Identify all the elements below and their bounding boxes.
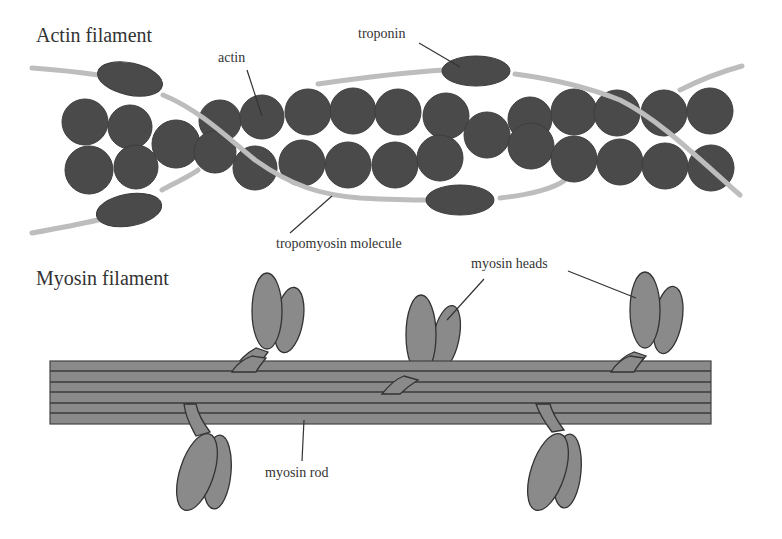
leader-myosin-heads-mid [447,279,484,320]
actin-monomer [285,89,331,135]
muscle-filament-diagram: Actin filament [0,0,782,539]
troponin-lower-mid [426,185,494,215]
tropomyosin-lower-right [500,180,565,198]
actin-monomer [330,88,376,134]
actin-monomer [108,105,152,149]
actin-monomer [62,99,108,145]
actin-monomer [551,136,597,182]
actin-monomer [240,95,284,139]
tropomyosin-upper-mid [318,70,445,84]
myosin-filament-title: Myosin filament [36,267,169,290]
tropomyosin-left-bottom-tail [32,220,98,233]
actin-monomer [508,123,554,169]
leader-troponin [419,43,460,67]
leader-myosin-heads-right [568,271,636,298]
myosin-head-front [630,272,660,348]
actin-monomer [597,139,643,185]
actin-monomer [375,89,421,135]
actin-monomer [372,142,418,188]
actin-filament-title: Actin filament [36,24,153,46]
actin-monomer [423,93,469,139]
label-actin: actin [218,50,245,65]
troponin-upper-left [94,56,165,101]
actin-monomer [114,145,158,189]
label-myosin-rod: myosin rod [265,465,328,480]
label-troponin: troponin [358,26,405,41]
leader-tropomyosin [290,196,332,233]
actin-monomer [325,142,371,188]
troponin-upper-mid [442,56,510,86]
actin-monomer [417,135,463,181]
label-tropomyosin: tropomyosin molecule [276,236,402,251]
actin-monomer [464,112,510,158]
tropomyosin-left-top-tail [32,68,98,75]
tropomyosin-lower-left [162,170,198,190]
myosin-head-pair-top-left [234,273,309,372]
myosin-head-pair-top-right [612,272,688,372]
actin-monomer [152,120,200,168]
leader-myosin-rod [302,420,304,461]
actin-monomer [687,88,733,134]
actin-monomer [65,146,113,194]
troponin-lower-left [94,189,165,232]
diagram-canvas: Actin filament [0,0,782,539]
myosin-head-front [252,273,282,349]
label-myosin-heads: myosin heads [471,256,548,271]
actin-monomer [551,89,597,135]
actin-monomer [642,143,688,189]
tropomyosin-right-top-tail [680,66,742,90]
